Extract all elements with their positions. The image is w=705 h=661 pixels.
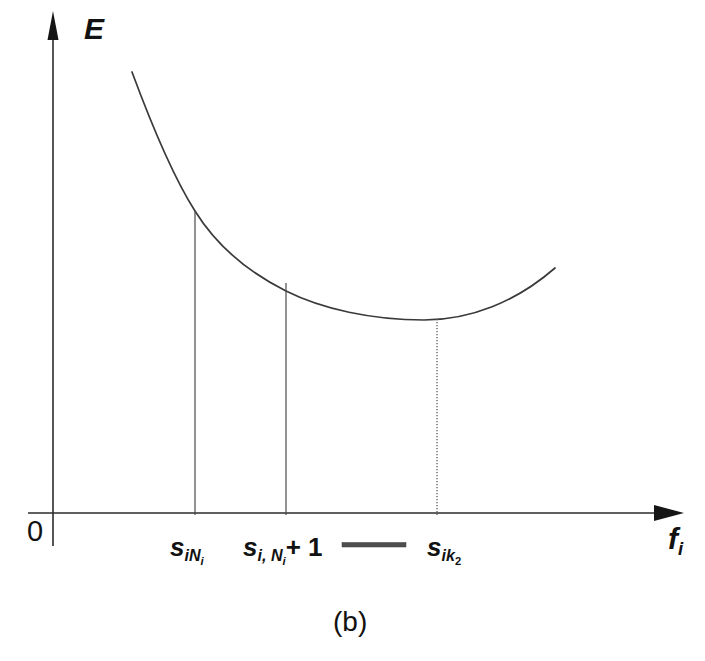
figure-canvas	[0, 0, 705, 661]
tick-label-1-sub-text: iN	[184, 546, 200, 564]
x-axis-label-subscript: i	[678, 538, 683, 559]
figure-container: E fi 0 siNi si, Ni+ 1 sik2 (b)	[0, 0, 705, 661]
tick-label-1-base: s	[170, 532, 184, 562]
ellipsis-bar-icon	[342, 543, 406, 548]
tick-label-3-sub-text: ik	[441, 546, 454, 564]
x-axis-label: fi	[668, 524, 683, 554]
tick-label-2-subsubscript: i	[283, 555, 286, 567]
x-axis-arrow-icon	[654, 505, 684, 521]
y-axis-arrow-icon	[48, 11, 59, 40]
x-axis-label-base: f	[668, 522, 678, 555]
tick-label-1-subsubscript: i	[201, 555, 204, 567]
origin-label: 0	[27, 517, 43, 546]
tick-label-2-base: s	[243, 532, 257, 562]
tick-label-2-suffix: + 1	[286, 532, 323, 562]
tick-label-s-i-N-i: siNi	[170, 534, 204, 560]
tick-label-s-i-k-2: sik2	[427, 534, 461, 560]
tick-label-2-sub-text: i, N	[257, 546, 282, 564]
tick-label-3-subscript: ik2	[441, 546, 461, 564]
tick-label-3-subsubscript: 2	[455, 555, 461, 567]
tick-label-1-subscript: iNi	[184, 546, 203, 564]
tick-label-s-i-Ni-plus-1: si, Ni+ 1	[243, 534, 323, 560]
tick-label-2-subscript: i, Ni	[257, 546, 285, 564]
y-axis-label: E	[84, 14, 104, 44]
figure-caption: (b)	[333, 608, 367, 636]
tick-label-3-base: s	[427, 532, 441, 562]
